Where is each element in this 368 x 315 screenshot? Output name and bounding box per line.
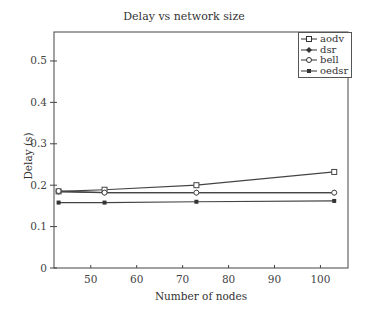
x-tick-label: 100 [310, 273, 330, 285]
circle-marker-icon [194, 190, 199, 195]
star-marker-icon [332, 199, 336, 203]
y-axis-label: Delay (s) [22, 116, 34, 196]
y-tick-label: 0.4 [30, 96, 47, 108]
star-marker-icon [103, 201, 107, 205]
diamond-marker-icon [301, 46, 317, 54]
circle-marker-icon [332, 190, 337, 195]
star-marker-icon [301, 67, 317, 75]
x-tick-label: 70 [176, 273, 189, 285]
y-tick-label: 0.1 [30, 220, 47, 232]
square-marker-icon [301, 35, 317, 43]
legend-item-bell: bell [301, 55, 349, 66]
x-tick-label: 80 [222, 273, 235, 285]
y-tick-label: 0 [40, 262, 47, 274]
x-tick-label: 60 [130, 273, 143, 285]
circle-marker-icon [301, 56, 317, 64]
star-marker-icon [57, 201, 61, 205]
square-marker-icon [332, 169, 337, 174]
legend-item-oedsr: oedsr [301, 66, 349, 77]
legend: aodv dsr bell oedsr [298, 32, 352, 78]
y-tick-label: 0.5 [30, 54, 47, 66]
x-tick-label: 90 [268, 273, 281, 285]
legend-item-aodv: aodv [301, 34, 349, 45]
square-marker-icon [194, 183, 199, 188]
circle-marker-icon [56, 188, 61, 193]
x-axis-label: Number of nodes [54, 290, 348, 302]
series-line-aodv [59, 172, 335, 191]
circle-marker-icon [102, 190, 107, 195]
x-tick-label: 50 [84, 273, 97, 285]
star-marker-icon [194, 200, 198, 204]
